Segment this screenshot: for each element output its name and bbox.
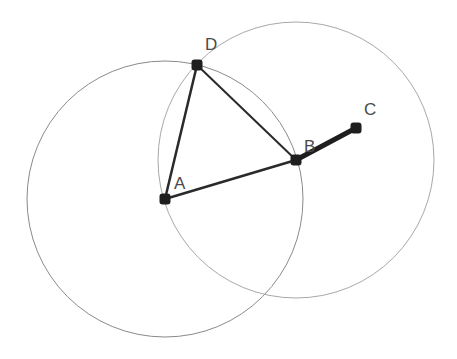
point-d[interactable] (192, 60, 203, 71)
segment-bd[interactable] (197, 65, 296, 160)
label-b: B (304, 137, 315, 156)
label-c: C (364, 100, 376, 119)
point-c[interactable] (351, 123, 362, 134)
label-d: D (205, 35, 217, 54)
label-a: A (174, 174, 186, 193)
point-a[interactable] (160, 194, 171, 205)
point-b[interactable] (291, 155, 302, 166)
construction-canvas: A B C D (0, 0, 457, 359)
